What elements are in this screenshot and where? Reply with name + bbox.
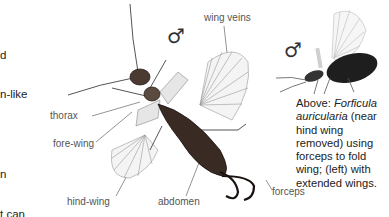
head: [130, 69, 150, 85]
male-symbol-icon: ♂: [284, 38, 302, 62]
label-hind-wing: hind-wing: [67, 196, 110, 207]
male-symbol-icon: ♂: [167, 24, 185, 48]
forceps: [220, 172, 254, 200]
label-wing-veins: wing veins: [204, 12, 251, 23]
figure-caption: Above: Forficula auricularia (near hind …: [296, 97, 389, 190]
label-thorax: thorax: [50, 110, 78, 121]
abdomen: [158, 104, 227, 176]
label-fore-wing: fore-wing: [53, 138, 94, 149]
label-abdomen: abdomen: [158, 196, 200, 207]
caption-prefix: Above:: [296, 97, 334, 109]
wing-right: [200, 52, 249, 120]
thorax: [144, 87, 160, 101]
wing-left: [111, 135, 158, 178]
